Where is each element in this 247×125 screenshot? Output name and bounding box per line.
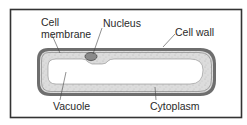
label-cytoplasm: Cytoplasm <box>150 100 200 112</box>
label-cell-membrane-line2: membrane <box>41 28 91 40</box>
label-cell-membrane-line1: Cell <box>41 16 59 28</box>
plant-cell-diagram: Cell membrane Nucleus Cell wall Vacuole … <box>0 0 247 125</box>
label-nucleus: Nucleus <box>103 17 141 29</box>
nucleus-shape <box>85 53 97 61</box>
label-cell-wall: Cell wall <box>175 26 214 38</box>
vacuole-shape <box>48 59 203 84</box>
label-vacuole: Vacuole <box>53 100 90 112</box>
